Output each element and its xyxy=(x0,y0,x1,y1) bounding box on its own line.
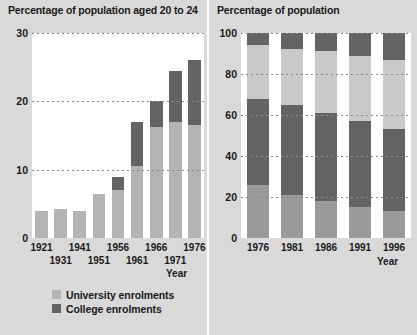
right-bar-segment xyxy=(247,45,269,98)
right-x-tick-label: 1991 xyxy=(343,242,377,253)
left-legend-label: College enrolments xyxy=(66,303,162,315)
left-legend: University enrolmentsCollege enrolments xyxy=(52,288,174,316)
right-y-tick-label: 40 xyxy=(211,150,237,162)
left-bar-segment xyxy=(188,60,201,125)
right-y-tick-label: 20 xyxy=(211,191,237,203)
right-x-tick-label: 1976 xyxy=(241,242,275,253)
left-bar-slot[interactable] xyxy=(51,33,70,238)
left-bar-segment xyxy=(93,194,106,238)
right-bar-slot[interactable] xyxy=(241,33,275,238)
right-gridline xyxy=(241,33,411,34)
left-bar-segment xyxy=(131,166,144,238)
right-x-tick-label: 1996 xyxy=(377,242,411,253)
left-bar-segment xyxy=(73,211,86,238)
left-y-tick-label: 10 xyxy=(2,164,28,176)
left-bar-slot[interactable] xyxy=(32,33,51,238)
left-bar-group xyxy=(32,33,204,238)
left-bar-segment xyxy=(150,101,163,126)
right-stacked-bar[interactable] xyxy=(383,33,405,238)
right-bar-segment xyxy=(349,121,371,207)
left-bar-slot[interactable] xyxy=(70,33,89,238)
right-bar-segment xyxy=(281,33,303,49)
right-bar-segment xyxy=(383,129,405,211)
left-legend-swatch-icon xyxy=(52,290,61,299)
right-bar-segment xyxy=(383,60,405,130)
right-bar-segment xyxy=(315,113,337,201)
left-x-tick-label: 1966 xyxy=(138,242,174,253)
left-bar-segment xyxy=(169,71,182,122)
right-gridline xyxy=(241,115,411,116)
left-legend-swatch-icon xyxy=(52,304,61,313)
left-x-tick-label: 1951 xyxy=(81,255,117,266)
left-legend-item[interactable]: College enrolments xyxy=(52,302,174,315)
left-stacked-bar[interactable] xyxy=(131,122,144,238)
left-bar-slot[interactable] xyxy=(185,33,204,238)
left-x-tick-label: 1976 xyxy=(176,242,212,253)
right-gridline xyxy=(241,197,411,198)
right-bar-segment xyxy=(349,33,371,56)
right-bar-segment xyxy=(383,33,405,60)
left-bar-slot[interactable] xyxy=(166,33,185,238)
right-bar-slot[interactable] xyxy=(377,33,411,238)
left-bar-segment xyxy=(54,209,67,238)
left-bar-segment xyxy=(169,122,182,238)
left-x-tick-label: 1956 xyxy=(100,242,136,253)
right-bar-slot[interactable] xyxy=(343,33,377,238)
left-stacked-bar[interactable] xyxy=(188,60,201,238)
left-bar-segment xyxy=(35,211,48,238)
left-bar-slot[interactable] xyxy=(147,33,166,238)
right-bar-segment xyxy=(315,201,337,238)
left-stacked-bar[interactable] xyxy=(169,71,182,238)
right-bar-segment xyxy=(281,105,303,195)
left-stacked-bar[interactable] xyxy=(35,211,48,238)
right-stacked-bar[interactable] xyxy=(349,33,371,238)
right-stacked-bar[interactable] xyxy=(281,33,303,238)
left-chart-panel: Percentage of population aged 20 to 24 0… xyxy=(0,0,207,335)
left-x-tick-label: 1941 xyxy=(62,242,98,253)
right-bar-segment xyxy=(247,99,269,185)
right-bar-segment xyxy=(281,49,303,104)
left-bar-slot[interactable] xyxy=(108,33,127,238)
left-gridline xyxy=(32,101,204,102)
right-x-axis-title: Year xyxy=(377,256,398,267)
right-x-tick-label: 1986 xyxy=(309,242,343,253)
right-gridline xyxy=(241,156,411,157)
right-bar-group xyxy=(241,33,411,238)
left-stacked-bar[interactable] xyxy=(54,209,67,238)
right-gridline xyxy=(241,74,411,75)
right-bar-segment xyxy=(349,56,371,122)
left-stacked-bar[interactable] xyxy=(73,211,86,238)
left-x-axis-title: Year xyxy=(166,268,187,279)
right-bar-segment xyxy=(383,211,405,238)
right-bar-slot[interactable] xyxy=(275,33,309,238)
left-stacked-bar[interactable] xyxy=(112,177,125,238)
right-bar-slot[interactable] xyxy=(309,33,343,238)
right-stacked-bar[interactable] xyxy=(315,33,337,238)
right-y-tick-label: 0 xyxy=(211,232,237,244)
right-chart-panel: Percentage of population 020406080100 19… xyxy=(209,0,417,335)
right-chart-title: Percentage of population xyxy=(217,4,339,16)
left-bar-segment xyxy=(112,177,125,191)
left-bar-slot[interactable] xyxy=(128,33,147,238)
left-x-tick-label: 1971 xyxy=(157,255,193,266)
left-y-tick-label: 30 xyxy=(2,27,28,39)
left-plot-area xyxy=(32,33,204,238)
left-bar-segment xyxy=(188,125,201,238)
left-y-tick-label: 20 xyxy=(2,95,28,107)
left-chart-title: Percentage of population aged 20 to 24 xyxy=(8,4,198,16)
left-x-tick-label: 1931 xyxy=(43,255,79,266)
left-legend-item[interactable]: University enrolments xyxy=(52,288,174,301)
right-y-tick-label: 100 xyxy=(211,27,237,39)
right-y-axis-labels: 020406080100 xyxy=(209,33,237,238)
right-plot-area xyxy=(241,33,411,238)
left-gridline xyxy=(32,170,204,171)
left-gridline xyxy=(32,33,204,34)
left-stacked-bar[interactable] xyxy=(93,194,106,238)
left-x-tick-label: 1921 xyxy=(23,242,59,253)
left-x-tick-label: 1961 xyxy=(119,255,155,266)
right-stacked-bar[interactable] xyxy=(247,33,269,238)
left-y-axis-labels: 0102030 xyxy=(0,33,28,238)
right-bar-segment xyxy=(349,207,371,238)
left-bar-slot[interactable] xyxy=(89,33,108,238)
right-bar-segment xyxy=(315,33,337,51)
